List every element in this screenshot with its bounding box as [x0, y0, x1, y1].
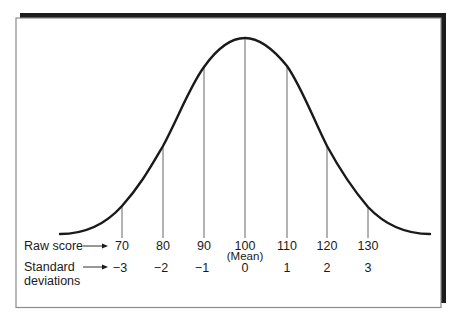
sd-tick-0: 0: [225, 261, 265, 275]
raw-tick-90: 90: [184, 239, 224, 253]
sd-tick-neg1: −1: [182, 261, 222, 275]
bell-curve-figure: Raw score Standard deviations 70 80 90 1…: [0, 0, 459, 322]
frame-shadow-right: [441, 13, 446, 303]
sd-tick-1: 1: [267, 261, 307, 275]
raw-score-label: Raw score: [24, 239, 83, 253]
raw-tick-110: 110: [267, 239, 307, 253]
raw-tick-120: 120: [307, 239, 347, 253]
sd-tick-neg2: −2: [141, 261, 181, 275]
standard-label-line2: deviations: [24, 274, 80, 288]
standard-label-line1: Standard: [24, 260, 75, 274]
raw-tick-80: 80: [143, 239, 183, 253]
raw-tick-130: 130: [348, 239, 388, 253]
frame-shadow-top: [20, 13, 446, 18]
sd-tick-neg3: −3: [100, 261, 140, 275]
sd-tick-2: 2: [307, 261, 347, 275]
raw-tick-70: 70: [102, 239, 142, 253]
sd-tick-3: 3: [348, 261, 388, 275]
